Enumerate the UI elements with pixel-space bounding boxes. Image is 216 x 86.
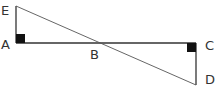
label-d: D — [205, 72, 215, 86]
right-angle-marker-a — [16, 34, 25, 43]
label-e: E — [1, 3, 9, 18]
label-b: B — [90, 47, 99, 62]
label-c: C — [205, 38, 214, 53]
segment-ed — [16, 6, 196, 85]
right-angle-marker-c — [187, 43, 196, 52]
geometry-diagram: E A B C D — [0, 0, 216, 86]
label-a: A — [1, 37, 10, 52]
